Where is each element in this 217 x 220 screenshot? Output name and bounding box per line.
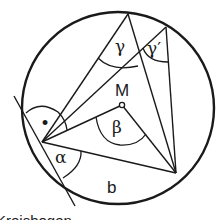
arc-b-label: b bbox=[107, 178, 116, 197]
circle-angle-diagram: γ γ′ M β α b • Kreisbogen bbox=[0, 0, 217, 220]
caption-kreisbogen: Kreisbogen bbox=[0, 212, 72, 220]
beta-label: β bbox=[112, 117, 122, 137]
alpha-label: α bbox=[55, 147, 67, 167]
right-angle-dot: • bbox=[40, 113, 50, 133]
gamma-prime-label: γ′ bbox=[147, 38, 161, 58]
chord-p2-b bbox=[166, 27, 176, 173]
center-point bbox=[119, 102, 124, 107]
gamma-label: γ bbox=[115, 36, 125, 56]
center-label: M bbox=[115, 81, 129, 100]
